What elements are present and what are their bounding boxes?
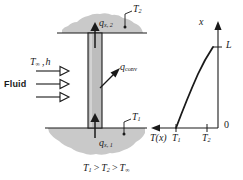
fluid-arrow-head-2 bbox=[60, 79, 69, 88]
plot-y-axis-arrowhead bbox=[214, 21, 221, 30]
plot-tick-T1-label: T1 bbox=[172, 133, 181, 144]
t1-subscript: 1 bbox=[138, 115, 141, 122]
t-infinity-subscript: ∞ bbox=[36, 60, 40, 67]
plot-tick-T2-label: T2 bbox=[202, 133, 211, 144]
caption-T2-subscript: 2 bbox=[107, 166, 110, 173]
caption-T1-subscript: 1 bbox=[89, 166, 92, 173]
lower-solid-region bbox=[48, 128, 145, 155]
heat-transfer-coefficient: h bbox=[45, 56, 50, 67]
q-bottom-label: qx, 1 bbox=[99, 138, 113, 149]
q-top-subscript: x, 2 bbox=[104, 21, 113, 28]
plot-origin-label: 0 bbox=[224, 120, 229, 130]
q-conv-subscript: conv bbox=[125, 65, 137, 72]
t1-leader-dot bbox=[123, 133, 126, 136]
caption-Tinf-subscript: ∞ bbox=[125, 166, 129, 173]
caption-gt-2: > bbox=[112, 162, 118, 173]
q-top-label: qx, 2 bbox=[99, 18, 113, 29]
plot-x-axis-label: x bbox=[199, 17, 203, 27]
t2-leader-dot bbox=[124, 26, 127, 29]
temperature-curve bbox=[176, 47, 213, 128]
fluid-label: Fluid bbox=[4, 80, 27, 89]
q-bottom-subscript: x, 1 bbox=[104, 141, 113, 148]
figure-caption: T1>T2>T∞ bbox=[83, 163, 130, 174]
fluid-arrow-head-3 bbox=[60, 92, 69, 101]
fluid-flow-arrows bbox=[36, 66, 69, 101]
axis-L-text: L bbox=[226, 39, 232, 50]
axis-x-text: x bbox=[199, 16, 203, 27]
plot-L-label: L bbox=[226, 40, 232, 50]
free-stream-label: T∞,h bbox=[30, 57, 50, 68]
q-conv-label: qconv bbox=[120, 62, 137, 73]
t2-subscript: 2 bbox=[139, 7, 142, 14]
tick-T2-subscript: 2 bbox=[208, 136, 211, 143]
fluid-arrow-head-1 bbox=[60, 66, 69, 75]
plot-x-axis-arrowhead bbox=[151, 125, 160, 132]
figure-container: qx, 2 T2 qconv T∞,h Fluid T1 qx, 1 x L 0… bbox=[0, 0, 243, 180]
tick-T1-subscript: 1 bbox=[178, 136, 181, 143]
figure-graphics bbox=[0, 0, 243, 180]
caption-gt-1: > bbox=[94, 162, 100, 173]
axis-origin-text: 0 bbox=[224, 119, 229, 130]
t1-label: T1 bbox=[132, 112, 141, 123]
curve-arg: (x) bbox=[156, 132, 167, 143]
t2-label: T2 bbox=[133, 4, 142, 15]
fluid-text: Fluid bbox=[4, 79, 27, 89]
curve-label: T(x) bbox=[150, 133, 167, 143]
